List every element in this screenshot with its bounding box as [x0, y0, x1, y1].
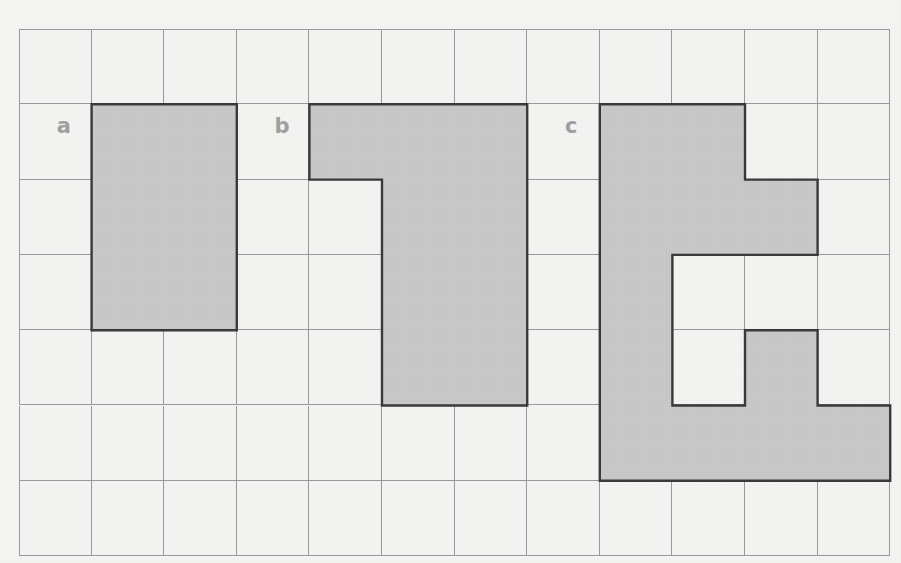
shape-c-cell [818, 406, 891, 482]
grid-cell [818, 29, 891, 104]
shape-c-cell [672, 180, 745, 256]
grid-cell [745, 481, 818, 556]
grid-cell [527, 330, 600, 405]
shape-c-cell [745, 406, 818, 482]
grid-cell [672, 29, 745, 104]
grid-cell [19, 406, 92, 481]
shape-a-cell [92, 104, 165, 180]
shape-c-cell [600, 104, 673, 180]
shape-c-cell [672, 406, 745, 482]
grid-cell [527, 406, 600, 481]
shape-b-cell [309, 104, 382, 180]
grid-cell [237, 180, 310, 255]
grid-cell [527, 255, 600, 330]
grid-cell [818, 180, 891, 255]
grid-cell [164, 29, 237, 104]
grid-cell [382, 481, 455, 556]
grid-shapes-figure: abc [0, 0, 901, 563]
grid-cell [818, 255, 891, 330]
grid-cell [237, 29, 310, 104]
grid-cell [19, 104, 92, 179]
grid-cell [309, 29, 382, 104]
grid-cell [92, 330, 165, 405]
shape-c-cell [600, 406, 673, 482]
grid-cell [237, 406, 310, 481]
shape-a-cell [164, 180, 237, 256]
grid-cell [309, 481, 382, 556]
grid-cell [19, 255, 92, 330]
grid-cell [309, 255, 382, 330]
grid-cell [818, 104, 891, 179]
grid-cell [164, 406, 237, 481]
grid-cell [818, 330, 891, 405]
shape-a-cell [164, 104, 237, 180]
grid-cell [92, 29, 165, 104]
grid-cell [164, 481, 237, 556]
shape-b-cell [382, 180, 455, 256]
grid-cell [309, 180, 382, 255]
shape-label-a: a [57, 116, 72, 137]
grid-cell [672, 481, 745, 556]
shape-b-cell [382, 330, 455, 406]
shape-b-cell [455, 255, 528, 331]
shape-b-cell [455, 330, 528, 406]
grid-cell [672, 255, 745, 330]
grid-cell [382, 406, 455, 481]
shape-label-b: b [275, 116, 291, 137]
grid-cell [818, 481, 891, 556]
shape-c-cell [600, 330, 673, 406]
grid-cell [672, 330, 745, 405]
grid-cell [19, 180, 92, 255]
shape-b-cell [382, 255, 455, 331]
shape-b-cell [382, 104, 455, 180]
grid-cell [382, 29, 455, 104]
shape-b-cell [455, 104, 528, 180]
grid-cell [309, 406, 382, 481]
grid-cell [309, 330, 382, 405]
grid-cell [92, 406, 165, 481]
grid-cell [19, 481, 92, 556]
grid-cell [237, 330, 310, 405]
grid-cell [455, 481, 528, 556]
grid-cell [19, 29, 92, 104]
grid-cell [527, 104, 600, 179]
grid-cell [237, 255, 310, 330]
grid-cell [92, 481, 165, 556]
grid-cell [600, 29, 673, 104]
shape-a-cell [92, 255, 165, 331]
shape-b-cell [455, 180, 528, 256]
grid-cell [237, 481, 310, 556]
grid-cell [600, 481, 673, 556]
shape-a-cell [164, 255, 237, 331]
shape-a-cell [92, 180, 165, 256]
grid-cell [745, 104, 818, 179]
grid-cell [455, 29, 528, 104]
grid-cell [745, 255, 818, 330]
grid-cell [237, 104, 310, 179]
grid-cell [19, 330, 92, 405]
grid-cell [527, 29, 600, 104]
grid-cell [164, 330, 237, 405]
grid-cell [527, 180, 600, 255]
grid-cell [527, 481, 600, 556]
shape-c-cell [600, 180, 673, 256]
grid-cell [745, 29, 818, 104]
shape-c-cell [600, 255, 673, 331]
grid-cell [455, 406, 528, 481]
shape-label-c: c [565, 116, 578, 137]
shape-c-cell [745, 180, 818, 256]
shape-c-cell [672, 104, 745, 180]
shape-c-cell [745, 330, 818, 406]
